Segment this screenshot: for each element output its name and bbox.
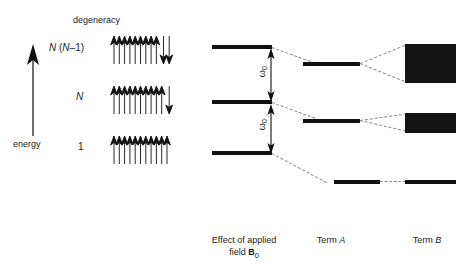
spin-arrows-icon	[112, 36, 178, 66]
omega-label-upper: ω0	[257, 66, 269, 77]
connector-termA-upper-to-termB-bottom	[360, 63, 405, 82]
connector-field-middle-to-termA	[272, 102, 316, 119]
caption-termB-em: B	[435, 235, 441, 245]
energy-axis-label: energy	[13, 140, 41, 149]
caption-field-column: Effect of applied field B0	[198, 234, 290, 261]
caption-termB: Term B	[392, 234, 462, 246]
degeneracy-header: degeneracy	[73, 16, 120, 25]
termA-level-upper	[303, 62, 360, 66]
omega-label-lower: ω0	[257, 119, 269, 130]
caption-termB-pre: Term	[413, 235, 436, 245]
spin-row-lower	[112, 136, 178, 166]
caption-termA-pre: Term	[317, 235, 340, 245]
spin-row-middle	[112, 86, 178, 116]
up-arrow-icon	[22, 44, 44, 136]
caption-termA-em: A	[339, 235, 345, 245]
termB-band-lower	[405, 180, 456, 184]
caption-termA: Term A	[296, 234, 366, 246]
connector-termA-lower-to-termB	[380, 181, 406, 182]
termB-band-middle	[405, 113, 456, 133]
spin-arrows-icon	[112, 136, 178, 166]
connector-termA-middle-to-termB-top	[360, 113, 407, 121]
spin-row-upper	[112, 36, 178, 66]
connector-termA-upper-to-termB-top	[360, 45, 405, 64]
spin-arrows-icon	[112, 86, 178, 116]
connector-termA-middle-to-termB-bottom	[360, 120, 406, 132]
energy-axis-arrow	[22, 44, 44, 136]
termB-band-upper	[405, 44, 456, 83]
caption-field-line2-sub: 0	[255, 251, 259, 260]
caption-field-line1: Effect of applied	[212, 235, 276, 245]
degeneracy-label-middle: N	[76, 92, 83, 102]
termA-level-lower	[334, 180, 380, 184]
field-level-upper	[212, 45, 272, 49]
degeneracy-label-upper-inner: N	[62, 42, 69, 53]
field-level-lower	[212, 151, 272, 155]
field-level-middle	[212, 100, 272, 104]
termA-level-middle	[303, 119, 360, 123]
figure-canvas: degeneracy energy N (N–1) N 1	[0, 0, 463, 266]
connector-field-lower-to-termA	[272, 153, 327, 183]
degeneracy-label-upper: N (N–1)	[49, 43, 84, 53]
degeneracy-label-lower: 1	[78, 142, 84, 152]
caption-field-line2-pre: field	[229, 247, 248, 257]
